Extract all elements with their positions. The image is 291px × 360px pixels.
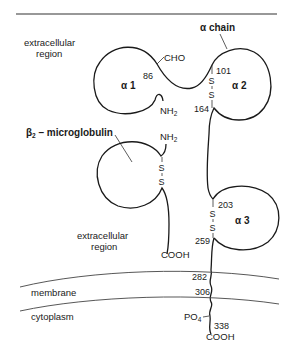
extracellular-label-top-1: extracellular: [24, 37, 75, 48]
b2m-cooh-label: COOH: [161, 249, 190, 260]
residue-306: 306: [195, 287, 210, 297]
b2m-label: β2 – microglobulin: [26, 127, 113, 139]
alpha-cooh-label: COOH: [206, 331, 235, 342]
membrane-outer-line: [20, 271, 279, 287]
disulfide-s-alpha2-2: S: [209, 90, 215, 100]
residue-86: 86: [143, 71, 153, 81]
mhc-class-i-diagram: α chain extracellular region S S S S α 1…: [0, 0, 291, 360]
cho-label: CHO: [164, 52, 185, 63]
disulfide-s-alpha3-1: S: [210, 209, 216, 219]
b2m-nh2-label: NH2: [160, 131, 178, 143]
domain-alpha1-label: α 1: [121, 80, 136, 91]
residue-203: 203: [218, 200, 233, 210]
residue-259: 259: [195, 236, 210, 246]
po4-leader: [203, 316, 209, 317]
disulfide-s-b2m-1: S: [159, 163, 165, 173]
residue-164: 164: [194, 104, 209, 114]
extracellular-label-top-2: region: [36, 48, 62, 59]
residue-101: 101: [216, 66, 231, 76]
disulfide-s-alpha3-2: S: [210, 223, 216, 233]
alpha-chain-label: α chain: [200, 22, 235, 33]
residue-338: 338: [214, 321, 229, 331]
alpha-chain-linker: [207, 134, 213, 199]
cytoplasm-label: cytoplasm: [31, 311, 74, 322]
alpha-chain-leader: [220, 34, 227, 49]
cho-leader: [157, 57, 164, 64]
b2m-leader: [115, 135, 132, 162]
disulfide-s-b2m-2: S: [159, 177, 165, 187]
disulfide-s-alpha2-1: S: [209, 76, 215, 86]
membrane-label: membrane: [31, 287, 76, 298]
alpha-nh2-label: NH2: [160, 105, 178, 117]
residue-282: 282: [192, 272, 207, 282]
po4-label: PO4: [184, 311, 202, 323]
extracellular-label-bottom-1: extracellular: [77, 230, 128, 241]
extracellular-label-bottom-2: region: [91, 241, 117, 252]
domain-alpha3-label: α 3: [235, 215, 250, 226]
alpha-chain-tm-tail: [210, 238, 214, 334]
membrane-inner-line: [20, 297, 279, 311]
domain-alpha2-label: α 2: [232, 80, 247, 91]
